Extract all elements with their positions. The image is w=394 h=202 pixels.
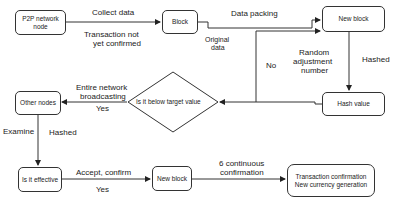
edge-label-yes-bottom: Yes: [96, 185, 109, 194]
node-label: Other nodes: [20, 99, 56, 107]
edge-label-tx-not-confirmed-2: yet confirmed: [93, 39, 141, 48]
node-other-nodes: Other nodes: [15, 91, 61, 115]
node-label: Transaction confirmation New currency ge…: [290, 173, 372, 189]
edge-label-accept-confirm: Accept, confirm: [76, 168, 131, 177]
edge-label-six-confirmation-1: 6 continuous: [219, 159, 264, 168]
node-label: New block: [339, 15, 369, 23]
node-label: P2P network node: [18, 15, 63, 31]
edge-label-hashed-left: Hashed: [49, 128, 77, 137]
edge-label-broadcast-2: broadcasting: [80, 92, 126, 101]
node-new-block-bottom: New block: [152, 166, 192, 191]
edge-label-six-confirmation-2: confirmation: [220, 168, 264, 177]
edge-label-no: No: [266, 61, 276, 70]
edge-label-examine: Examine: [3, 127, 34, 136]
node-transaction-confirmation: Transaction confirmation New currency ge…: [287, 164, 375, 197]
edge-label-random-3: number: [301, 66, 328, 75]
node-is-it-effective: Is it effective: [18, 167, 62, 192]
edge-label-tx-not-confirmed-1: Transaction not: [84, 30, 139, 39]
node-label: Block: [172, 18, 188, 26]
edge-label-random-2: adjustment: [293, 57, 332, 66]
node-label: New block: [157, 175, 187, 183]
edge-label-broadcast-1: Entire network: [76, 83, 127, 92]
node-p2p-network-node: P2P network node: [15, 10, 66, 35]
edge-label-hashed-right: Hashed: [362, 55, 390, 64]
edge-label-data-packing: Data packing: [231, 9, 278, 18]
node-block: Block: [162, 10, 198, 34]
node-label: Hash value: [337, 100, 370, 108]
edge-label-yes-left: Yes: [96, 104, 109, 113]
node-label: Is it effective: [22, 176, 58, 184]
edge-label-original-data-2: data: [211, 43, 225, 52]
edge-label-random-1: Random: [299, 48, 329, 57]
node-hash-value: Hash value: [322, 92, 385, 116]
decision-below-target: Is it below target value: [136, 98, 201, 105]
node-new-block-top: New block: [322, 6, 385, 32]
edge-label-collect-data: Collect data: [92, 8, 134, 17]
